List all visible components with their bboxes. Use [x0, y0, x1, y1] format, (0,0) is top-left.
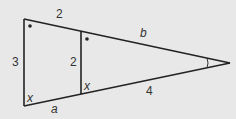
label-bottom-right-segment: 4 — [146, 84, 153, 98]
bottom-line — [24, 63, 230, 106]
apex-angle-arc — [207, 58, 208, 68]
similar-triangles-diagram: 2 b 3 2 a 4 x x — [0, 0, 236, 119]
label-top-left-segment: 2 — [56, 7, 63, 21]
inner-top-angle-dot — [85, 37, 89, 41]
top-line — [24, 19, 230, 63]
label-left-side: 3 — [12, 55, 19, 69]
label-inner-side: 2 — [70, 55, 77, 69]
label-top-right-segment: b — [140, 26, 147, 40]
top-left-angle-dot — [28, 24, 32, 28]
label-angle-bottom-left: x — [26, 91, 34, 105]
label-angle-inner-bottom: x — [83, 79, 91, 93]
label-bottom-left-segment: a — [51, 102, 58, 116]
